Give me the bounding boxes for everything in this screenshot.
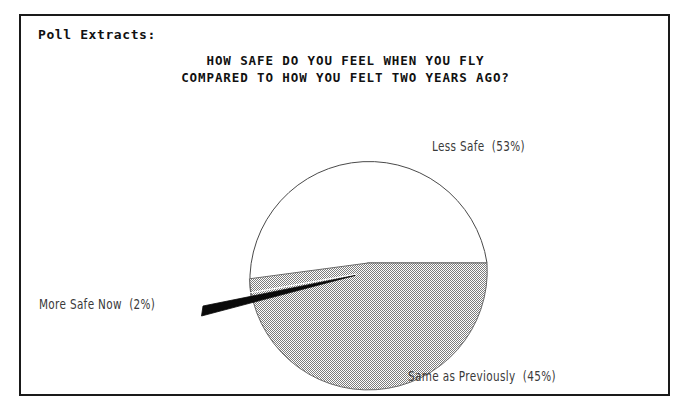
pie-chart-plot: [0, 0, 691, 418]
pie-label-less-safe: Less Safe (53%): [432, 138, 525, 154]
page-canvas: Poll Extracts: HOW SAFE DO YOU FEEL WHEN…: [0, 0, 691, 418]
pie-label-same-as-previously: Same as Previously (45%): [408, 368, 556, 384]
pie-label-more-safe-now: More Safe Now (2%): [39, 296, 155, 312]
